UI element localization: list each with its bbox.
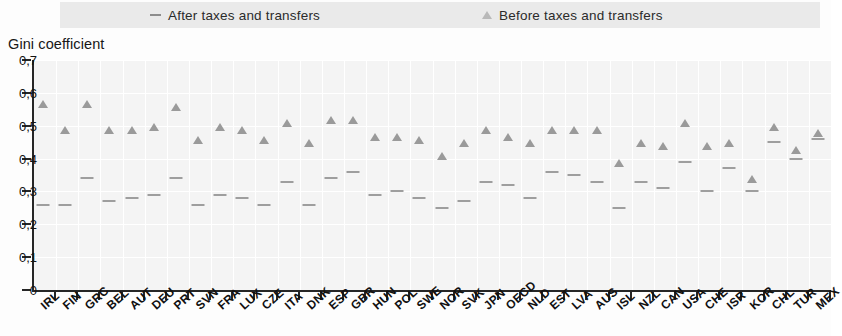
gridline-vertical xyxy=(565,60,566,290)
y-axis-tick-label: 0,4 xyxy=(19,151,37,166)
y-axis-tick-label: 0,3 xyxy=(19,184,37,199)
data-point-before-taxes xyxy=(193,136,203,144)
gridline-vertical xyxy=(676,60,677,290)
data-point-after-taxes xyxy=(103,200,116,202)
gridline-vertical xyxy=(477,60,478,290)
data-point-before-taxes xyxy=(127,126,137,134)
x-axis-category-label: ITA xyxy=(282,289,306,312)
gridline-vertical xyxy=(587,60,588,290)
data-point-after-taxes xyxy=(435,207,448,209)
data-point-after-taxes xyxy=(612,207,625,209)
gridline-vertical xyxy=(233,60,234,290)
data-point-before-taxes xyxy=(525,139,535,147)
x-axis-category-label: FIN xyxy=(60,289,84,313)
data-point-before-taxes xyxy=(60,126,70,134)
data-point-before-taxes xyxy=(437,152,447,160)
gridline-vertical xyxy=(167,60,168,290)
data-point-after-taxes xyxy=(811,138,824,140)
data-point-after-taxes xyxy=(169,177,182,179)
data-point-after-taxes xyxy=(501,184,514,186)
plot-area xyxy=(32,60,831,292)
data-point-before-taxes xyxy=(171,103,181,111)
data-point-before-taxes xyxy=(658,142,668,150)
data-point-before-taxes xyxy=(304,139,314,147)
data-point-before-taxes xyxy=(370,133,380,141)
data-point-after-taxes xyxy=(59,204,72,206)
data-point-before-taxes xyxy=(702,142,712,150)
data-point-before-taxes xyxy=(614,159,624,167)
data-point-before-taxes xyxy=(82,100,92,108)
data-point-after-taxes xyxy=(479,181,492,183)
data-point-after-taxes xyxy=(280,181,293,183)
data-point-after-taxes xyxy=(745,190,758,192)
data-point-before-taxes xyxy=(769,123,779,131)
data-point-before-taxes xyxy=(38,100,48,108)
gridline-vertical xyxy=(366,60,367,290)
data-point-after-taxes xyxy=(258,204,271,206)
gridline-vertical xyxy=(322,60,323,290)
data-point-before-taxes xyxy=(392,133,402,141)
data-point-after-taxes xyxy=(391,190,404,192)
data-point-before-taxes xyxy=(791,146,801,154)
gridline-vertical xyxy=(521,60,522,290)
data-point-after-taxes xyxy=(302,204,315,206)
y-axis-tick-label: 0,1 xyxy=(19,250,37,265)
data-point-after-taxes xyxy=(192,204,205,206)
data-point-after-taxes xyxy=(147,194,160,196)
gridline-vertical xyxy=(698,60,699,290)
gridline-vertical xyxy=(278,60,279,290)
y-axis-tick-label: 0 xyxy=(30,283,37,298)
data-point-before-taxes xyxy=(636,139,646,147)
data-point-after-taxes xyxy=(369,194,382,196)
gridline-vertical xyxy=(100,60,101,290)
gridline-vertical xyxy=(189,60,190,290)
gridline-vertical xyxy=(123,60,124,290)
data-point-after-taxes xyxy=(81,177,94,179)
data-point-before-taxes xyxy=(724,139,734,147)
gridline-vertical xyxy=(145,60,146,290)
gridline-vertical xyxy=(632,60,633,290)
data-point-after-taxes xyxy=(767,141,780,143)
data-point-after-taxes xyxy=(590,181,603,183)
gridline-vertical xyxy=(344,60,345,290)
data-point-before-taxes xyxy=(547,126,557,134)
gridline-vertical xyxy=(499,60,500,290)
data-point-after-taxes xyxy=(457,200,470,202)
data-point-before-taxes xyxy=(348,116,358,124)
data-point-before-taxes xyxy=(503,133,513,141)
data-point-before-taxes xyxy=(282,119,292,127)
data-point-before-taxes xyxy=(215,123,225,131)
x-axis-category-label: IRL xyxy=(38,289,62,313)
data-point-after-taxes xyxy=(701,190,714,192)
data-point-after-taxes xyxy=(656,187,669,189)
data-point-before-taxes xyxy=(326,116,336,124)
gridline-vertical xyxy=(455,60,456,290)
data-point-before-taxes xyxy=(459,139,469,147)
data-point-before-taxes xyxy=(813,129,823,137)
data-point-after-taxes xyxy=(723,167,736,169)
data-point-before-taxes xyxy=(592,126,602,134)
gridline-vertical xyxy=(765,60,766,290)
data-point-before-taxes xyxy=(104,126,114,134)
data-point-after-taxes xyxy=(324,177,337,179)
gridline-vertical xyxy=(610,60,611,290)
data-point-after-taxes xyxy=(679,161,692,163)
data-point-before-taxes xyxy=(481,126,491,134)
data-point-before-taxes xyxy=(259,136,269,144)
data-point-before-taxes xyxy=(680,119,690,127)
data-point-after-taxes xyxy=(236,197,249,199)
data-point-after-taxes xyxy=(347,171,360,173)
data-point-after-taxes xyxy=(634,181,647,183)
data-point-after-taxes xyxy=(546,171,559,173)
gridline-vertical xyxy=(809,60,810,290)
data-point-after-taxes xyxy=(214,194,227,196)
data-point-after-taxes xyxy=(37,204,50,206)
data-point-before-taxes xyxy=(237,126,247,134)
data-point-before-taxes xyxy=(747,175,757,183)
data-point-before-taxes xyxy=(569,126,579,134)
gridline-vertical xyxy=(211,60,212,290)
gridline-vertical xyxy=(300,60,301,290)
data-point-after-taxes xyxy=(789,158,802,160)
gridline-vertical xyxy=(410,60,411,290)
gridline-vertical xyxy=(433,60,434,290)
